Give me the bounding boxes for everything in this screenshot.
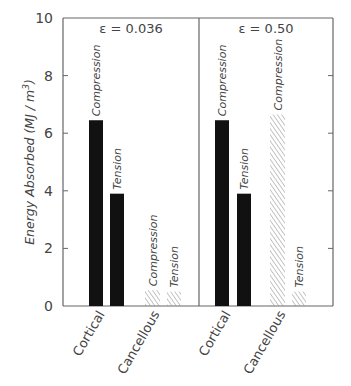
bar-label: Tension bbox=[168, 246, 181, 288]
x-group-label-cancellous: Cancellous bbox=[240, 308, 288, 377]
bar-label: Compression bbox=[90, 45, 103, 117]
bar-label: Compression bbox=[272, 39, 285, 111]
y-tick-label: 10 bbox=[35, 10, 53, 26]
bar-cancellous-compression bbox=[145, 290, 160, 306]
bar-label: Compression bbox=[216, 45, 229, 117]
y-axis-label: Energy Absorbed (MJ / m3) bbox=[21, 79, 37, 245]
x-group-label-cortical: Cortical bbox=[196, 308, 234, 359]
panel-label-strain-0036: ε = 0.036 bbox=[99, 21, 162, 36]
bar-label: Tension bbox=[238, 148, 251, 190]
y-tick-label: 4 bbox=[44, 183, 53, 199]
y-tick-label: 0 bbox=[44, 298, 53, 314]
y-tick-label: 6 bbox=[44, 125, 53, 141]
bar-cancellous-tension bbox=[292, 292, 306, 306]
y-tick-label: 2 bbox=[44, 240, 53, 256]
bar-cortical-tension bbox=[237, 194, 251, 306]
bar-cortical-compression bbox=[89, 120, 103, 306]
y-tick-label: 8 bbox=[44, 68, 53, 84]
x-group-label-cortical: Cortical bbox=[70, 308, 108, 359]
energy-absorbed-bar-chart: 0246810 Energy Absorbed (MJ / m3) ε = 0.… bbox=[0, 0, 351, 386]
bar-label: Compression bbox=[147, 215, 160, 287]
bar-cancellous-compression bbox=[270, 114, 285, 306]
x-group-label-cancellous: Cancellous bbox=[114, 308, 162, 377]
panel-label-strain-050: ε = 0.50 bbox=[238, 21, 293, 36]
bar-label: Tension bbox=[111, 148, 124, 190]
bar-cortical-tension bbox=[110, 194, 124, 306]
bar-cancellous-tension bbox=[167, 292, 181, 306]
x-axis-labels: CorticalCancellousCorticalCancellous bbox=[70, 308, 289, 377]
bar-label: Tension bbox=[293, 246, 306, 288]
bar-cortical-compression bbox=[215, 120, 229, 306]
y-axis-ticks: 0246810 bbox=[35, 10, 333, 314]
bars: CompressionTensionCompressionTensionComp… bbox=[89, 39, 306, 306]
